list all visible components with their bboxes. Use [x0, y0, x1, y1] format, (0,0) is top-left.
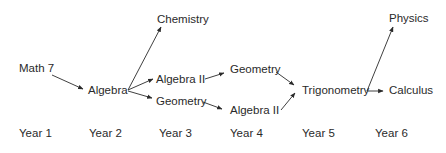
node-math7: Math 7	[19, 61, 54, 75]
node-geometry-year3: Geometry	[156, 94, 207, 108]
node-chemistry: Chemistry	[157, 12, 209, 26]
node-physics: Physics	[389, 11, 429, 25]
year-label-1: Year 1	[19, 126, 52, 140]
edge-trigonometry-physics	[367, 27, 393, 91]
node-algebra2-year4: Algebra II	[230, 103, 279, 117]
edge-algebra-algebra2	[128, 79, 153, 90]
node-algebra: Algebra	[88, 83, 128, 97]
node-trigonometry: Trigonometry	[302, 83, 369, 97]
year-label-2: Year 2	[89, 126, 122, 140]
node-algebra2-year3: Algebra II	[156, 72, 205, 86]
year-label-4: Year 4	[230, 126, 263, 140]
year-label-5: Year 5	[302, 126, 335, 140]
node-calculus: Calculus	[389, 83, 433, 97]
edge-algebra2-geometry	[205, 73, 224, 79]
edge-algebra-geometry	[128, 91, 152, 98]
year-label-6: Year 6	[375, 126, 408, 140]
edge-math7-algebra	[52, 75, 83, 89]
edge-algebra2-trigonometry	[281, 93, 295, 110]
node-geometry-year4: Geometry	[230, 62, 281, 76]
year-label-3: Year 3	[159, 126, 192, 140]
